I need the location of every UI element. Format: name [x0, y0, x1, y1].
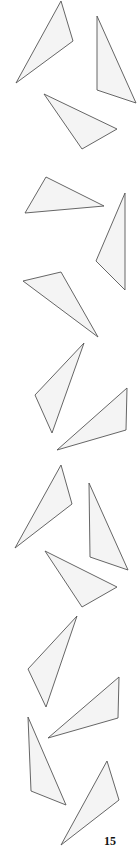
triangle-1 [16, 1, 73, 83]
triangle-10 [89, 483, 128, 570]
triangle-15 [61, 761, 119, 845]
triangle-7 [35, 343, 84, 433]
triangle-13 [48, 677, 119, 738]
worksheet-page: 15 [0, 0, 139, 849]
triangle-6 [23, 272, 98, 337]
triangle-5 [96, 193, 125, 290]
triangle-12 [28, 616, 77, 707]
triangle-figures [0, 0, 139, 849]
triangle-4 [25, 177, 104, 213]
triangle-9 [15, 465, 72, 548]
triangle-2 [97, 16, 136, 103]
page-number: 15 [104, 835, 116, 847]
triangle-8 [57, 388, 127, 450]
triangle-3 [44, 94, 117, 149]
